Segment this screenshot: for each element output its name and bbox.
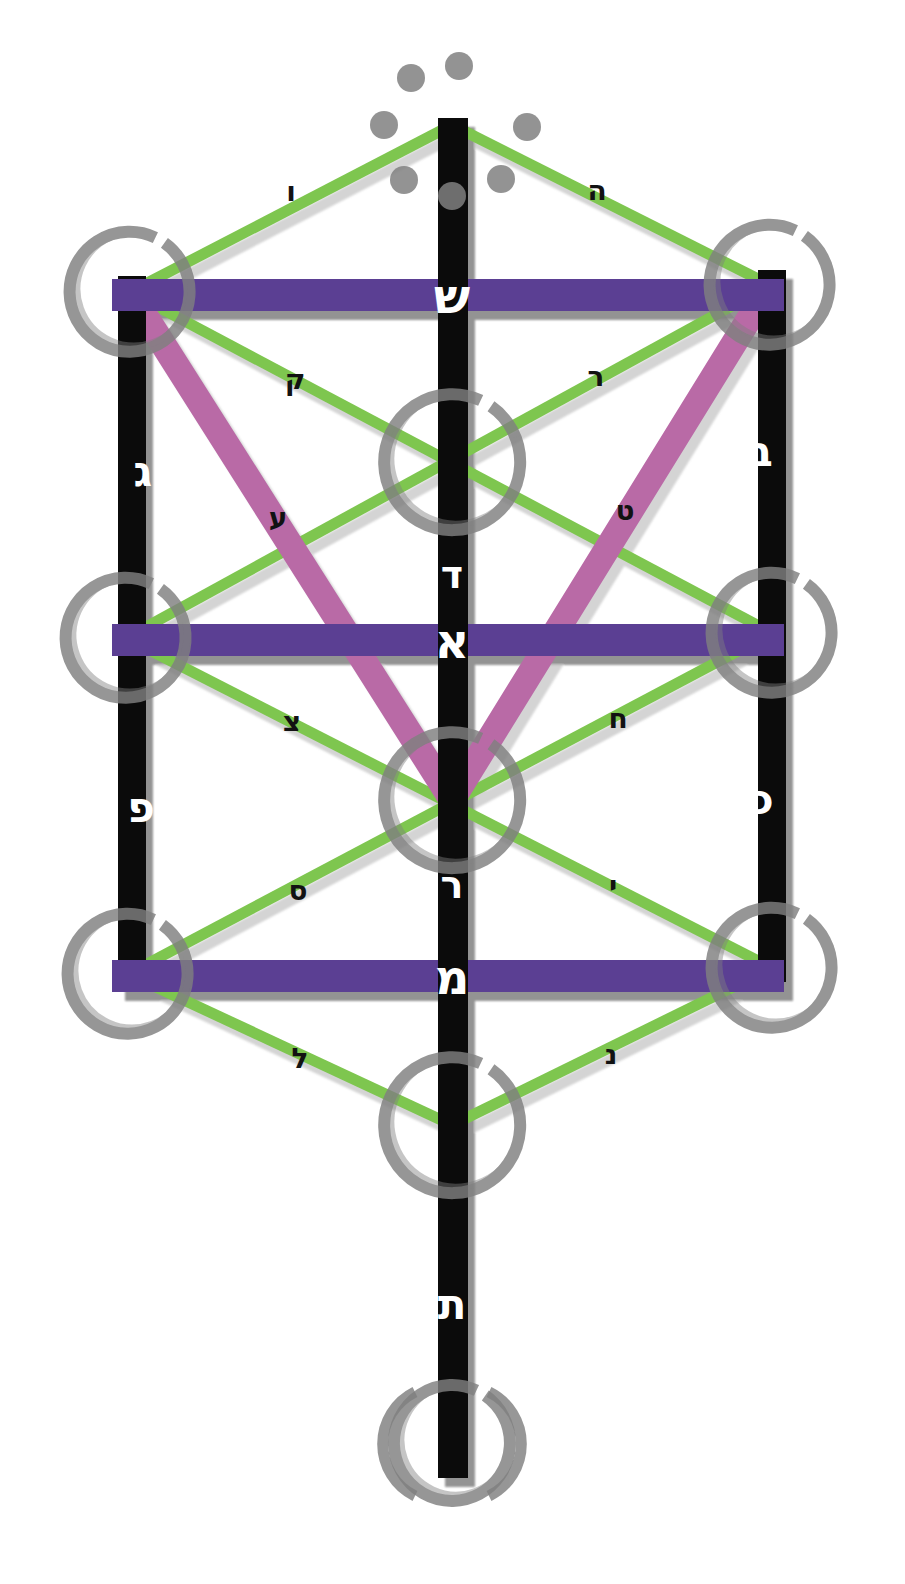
hebrew-letter-ayin: ע <box>269 504 288 532</box>
hebrew-letter-yod: י <box>609 872 617 900</box>
dot-1 <box>445 52 473 80</box>
hebrew-letter-tsadi: צ <box>283 708 301 736</box>
hebrew-letter-tet: ט <box>615 497 634 525</box>
hebrew-letter-bet: ב <box>747 431 773 473</box>
tree-of-life-diagram: שאמבגדכפרתוהקרעטצחסילנ <box>0 0 905 1584</box>
dot-7 <box>438 182 466 210</box>
hebrew-letter-resh: ר <box>441 866 464 904</box>
hebrew-letter-hey: ה <box>587 177 606 205</box>
hebrew-letter-gimel: ג <box>134 451 153 493</box>
hebrew-letter-dalet: ד <box>441 556 463 594</box>
hebrew-letter-mem: מ <box>435 953 470 1001</box>
hebrew-letter-aleph: א <box>435 617 470 665</box>
hebrew-letter-pe: פ <box>127 787 155 829</box>
dot-3 <box>370 111 398 139</box>
hebrew-letter-qof: ק <box>285 366 306 394</box>
hebrew-letter-lamed: ל <box>292 1045 309 1073</box>
hebrew-letter-chet: ח <box>608 705 627 733</box>
dot-4 <box>513 113 541 141</box>
dot-5 <box>390 166 418 194</box>
hebrew-letter-vav: ו <box>286 178 296 206</box>
hebrew-letter-resh2: ר <box>588 363 605 391</box>
hebrew-letter-kaf: כ <box>750 779 774 821</box>
dot-6 <box>487 165 515 193</box>
hebrew-letter-tav: ת <box>438 1284 467 1326</box>
hebrew-letter-shin: ש <box>434 272 470 320</box>
hebrew-letter-nun: נ <box>605 1041 618 1069</box>
dot-2 <box>397 64 425 92</box>
hebrew-letter-samekh: ס <box>288 877 307 905</box>
